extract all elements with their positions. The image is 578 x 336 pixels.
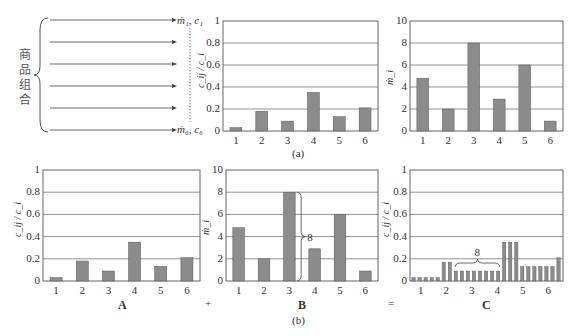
svg-text:8: 8 xyxy=(307,231,313,243)
b-B-xtick: 2 xyxy=(261,285,267,296)
product-mix-label-char-1: 商 xyxy=(18,48,32,63)
a-left-xtick: 3 xyxy=(285,135,291,146)
a-left-xtick: 5 xyxy=(337,135,343,146)
b-B-ytick: 2 xyxy=(218,253,224,264)
b-C-xtick: 5 xyxy=(520,285,526,296)
b-A-xtick: 6 xyxy=(184,285,190,296)
product-mix-label-char-2: 品 xyxy=(18,63,32,78)
b-B-ytick: 6 xyxy=(218,208,224,219)
a-left-xtick: 2 xyxy=(259,135,265,146)
a-left-ytick: 0.6 xyxy=(206,59,220,70)
b-A-xtick: 2 xyxy=(80,285,86,296)
b-C-ytick: 0 xyxy=(402,275,408,286)
a-left-ytick: 1 xyxy=(215,15,221,26)
b-C-ytick: 0.6 xyxy=(393,208,407,219)
a-right-ytick: 4 xyxy=(402,81,408,92)
flow-top-label: ṁ₁, c₁ xyxy=(177,14,203,26)
a-right-xtick: 5 xyxy=(522,135,528,146)
ylabel-b-B: ṁ_i xyxy=(200,220,211,235)
b-C-ytick: 0.4 xyxy=(393,231,407,242)
ylabel-a-left: c_ij / c_i xyxy=(195,53,206,88)
b-B-xtick: 3 xyxy=(287,285,293,296)
equals-operator: = xyxy=(388,298,394,309)
b-B-xtick: 1 xyxy=(236,285,242,296)
b-B-ytick: 4 xyxy=(218,231,224,242)
a-left-ytick: 0 xyxy=(215,125,221,136)
a-right-ytick: 10 xyxy=(396,15,407,26)
chart-a-cost-ratio xyxy=(223,21,378,131)
label-B: B xyxy=(298,299,306,311)
b-C-xtick: 3 xyxy=(469,285,475,296)
a-left-xtick: 6 xyxy=(362,135,368,146)
label-A: A xyxy=(118,299,127,311)
b-B-xtick: 5 xyxy=(337,285,343,296)
chart-b-B-mass-flow: 8 xyxy=(226,170,378,281)
chart-b-C-expanded: 8 xyxy=(410,170,563,281)
product-mix-label-char-3: 组 xyxy=(18,78,32,93)
b-A-ytick: 1 xyxy=(35,164,41,175)
b-C-xtick: 2 xyxy=(444,285,450,296)
b-A-ytick: 0.2 xyxy=(26,253,40,264)
a-right-ytick: 6 xyxy=(402,59,408,70)
b-A-ytick: 0 xyxy=(35,275,41,286)
b-A-ytick: 0.6 xyxy=(26,208,40,219)
b-B-ytick: 8 xyxy=(218,186,224,197)
a-right-ytick: 0 xyxy=(402,125,408,136)
b-A-ytick: 0.8 xyxy=(26,186,40,197)
a-left-ytick: 0.8 xyxy=(206,37,220,48)
flow-bottom-label: ṁ₆, c₆ xyxy=(177,123,203,135)
b-A-xtick: 5 xyxy=(158,285,164,296)
chart-a-mass-flow xyxy=(410,21,563,131)
chart-b-A-cost-ratio xyxy=(43,170,200,281)
a-right-xtick: 6 xyxy=(548,135,554,146)
a-left-xtick: 4 xyxy=(311,135,317,146)
ylabel-a-right: ṁ_i xyxy=(384,70,395,85)
a-left-ytick: 0.4 xyxy=(206,81,220,92)
caption-b: (b) xyxy=(292,315,305,326)
product-mix-flow-diagram xyxy=(34,18,190,132)
b-C-xtick: 4 xyxy=(495,285,501,296)
a-right-xtick: 1 xyxy=(420,135,426,146)
b-C-xtick: 1 xyxy=(418,285,424,296)
ylabel-b-C: c_ij / c_i xyxy=(380,202,391,237)
b-A-xtick: 3 xyxy=(106,285,112,296)
b-B-ytick: 10 xyxy=(212,164,223,175)
product-mix-label-char-4: 合 xyxy=(18,93,32,108)
b-A-xtick: 4 xyxy=(132,285,138,296)
b-C-ytick: 0.2 xyxy=(393,253,407,264)
b-C-ytick: 1 xyxy=(402,164,408,175)
b-B-ytick: 0 xyxy=(218,275,224,286)
a-right-xtick: 3 xyxy=(471,135,477,146)
a-right-ytick: 2 xyxy=(402,103,408,114)
ylabel-b-A: c_ij / c_i xyxy=(12,202,23,237)
b-C-xtick: 6 xyxy=(546,285,552,296)
a-left-ytick: 0.2 xyxy=(206,103,220,114)
a-right-xtick: 2 xyxy=(446,135,452,146)
caption-a: (a) xyxy=(292,148,304,159)
a-right-ytick: 8 xyxy=(402,37,408,48)
b-B-xtick: 4 xyxy=(312,285,318,296)
plus-operator: + xyxy=(205,298,211,309)
b-B-xtick: 6 xyxy=(363,285,369,296)
svg-text:8: 8 xyxy=(474,246,480,258)
label-C: C xyxy=(482,299,491,311)
b-C-ytick: 0.8 xyxy=(393,186,407,197)
b-A-ytick: 0.4 xyxy=(26,231,40,242)
a-right-xtick: 4 xyxy=(497,135,503,146)
b-A-xtick: 1 xyxy=(53,285,59,296)
a-left-xtick: 1 xyxy=(233,135,239,146)
